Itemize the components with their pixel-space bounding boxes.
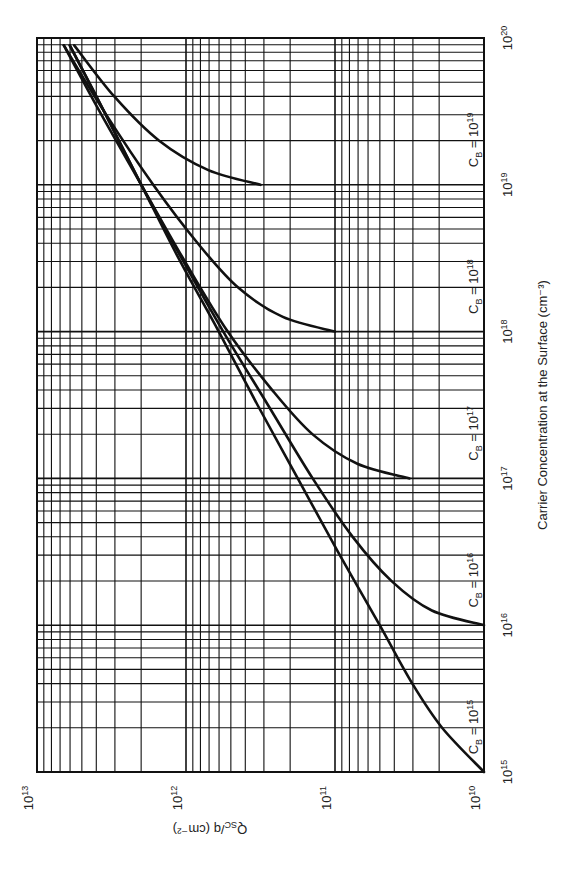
- y-tick-label: 1012: [169, 786, 185, 810]
- y-tick-label: 1010: [467, 786, 483, 810]
- y-tick-label: 1013: [20, 786, 36, 810]
- plot-frame: [37, 38, 484, 772]
- y-axis-title: QSC/q (cm⁻²): [173, 820, 247, 837]
- chart-svg: 101510161017101810191020 101310121011101…: [0, 0, 567, 877]
- curve-label-cb-18: CB = 1018: [465, 259, 484, 314]
- x-tick-labels: 101510161017101810191020: [499, 26, 515, 784]
- curve-label-cb-19: CB = 1019: [465, 112, 484, 167]
- x-tick-label: 1017: [499, 466, 515, 490]
- y-tick-labels: 1013101210111010: [20, 786, 483, 810]
- y-axis-title-q: Q: [237, 822, 247, 837]
- x-axis-title: Carrier Concentration at the Surface (cm…: [535, 280, 550, 530]
- curve-label-cb-17: CB = 1017: [465, 406, 484, 461]
- x-tick-label: 1020: [499, 26, 515, 50]
- curve-c-b-10-16: [70, 45, 484, 625]
- curve-label-cb-15: CB = 1015: [465, 700, 484, 755]
- grid: [37, 38, 484, 772]
- x-tick-label: 1019: [499, 173, 515, 197]
- y-axis-title-rest: /q (cm⁻²): [173, 822, 225, 837]
- x-tick-label: 1018: [499, 319, 515, 343]
- curve-label-cb-16: CB = 1016: [465, 553, 484, 608]
- y-tick-label: 1011: [318, 786, 334, 810]
- x-tick-label: 1015: [499, 760, 515, 784]
- y-axis-title-sub: SC: [224, 820, 237, 830]
- x-tick-label: 1016: [499, 613, 515, 637]
